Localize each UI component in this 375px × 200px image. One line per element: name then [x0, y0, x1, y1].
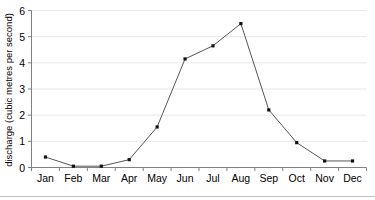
y-tick-label: 6 [11, 6, 25, 16]
bottom-divider [0, 196, 375, 197]
y-tick-labels: 0123456JanFebMarAprMayJunJulAugSepOctNov… [0, 0, 375, 200]
y-tick-label: 3 [11, 84, 25, 94]
y-tick-label: 2 [11, 110, 25, 120]
y-tick-label: 0 [11, 163, 25, 173]
x-tick-label-dec: Dec [333, 172, 373, 184]
y-tick-label: 5 [11, 32, 25, 42]
y-tick-label: 1 [11, 136, 25, 146]
y-tick-label: 4 [11, 58, 25, 68]
line-chart: discharge (cubic metres per second) 0123… [0, 0, 375, 200]
